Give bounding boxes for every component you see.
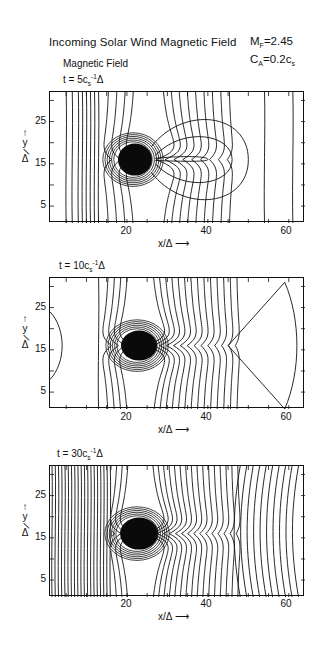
xtick-20: 20 xyxy=(120,411,131,422)
xtick-60: 60 xyxy=(280,598,291,609)
contour-plot-3 xyxy=(50,466,305,597)
xtick-60: 60 xyxy=(280,225,291,236)
dense-core xyxy=(121,331,157,361)
xtick-40: 40 xyxy=(200,225,211,236)
x-axis-label: x/Δ ⟶ xyxy=(158,238,189,249)
ytick-25: 25 xyxy=(35,115,46,126)
xtick-40: 40 xyxy=(200,598,211,609)
ytick-15: 15 xyxy=(35,157,46,168)
right-arrow-icon: ⟶ xyxy=(175,238,189,249)
dense-core xyxy=(120,518,158,550)
panel-1-time-label: t = 5cs-1Δ xyxy=(63,73,103,87)
x-axis-label: x/Δ ⟶ xyxy=(158,611,189,622)
ytick-5: 5 xyxy=(40,385,46,396)
dense-core xyxy=(118,144,152,176)
y-axis-label: ↑ y / Δ xyxy=(20,502,30,538)
ytick-5: 5 xyxy=(40,573,46,584)
figure-title: Incoming Solar Wind Magnetic Field xyxy=(49,36,236,48)
right-arrow-icon: ⟶ xyxy=(175,424,189,435)
y-axis-label: ↑ y / Δ xyxy=(20,128,30,164)
xtick-60: 60 xyxy=(280,411,291,422)
contour-panel-3 xyxy=(49,465,304,596)
ytick-15: 15 xyxy=(35,531,46,542)
xtick-40: 40 xyxy=(200,411,211,422)
panel-2-time-label: t = 10cs-1Δ xyxy=(59,259,105,273)
ytick-25: 25 xyxy=(35,489,46,500)
contour-plot-2 xyxy=(50,278,305,409)
right-arrow-icon: ⟶ xyxy=(175,611,189,622)
ytick-15: 15 xyxy=(35,343,46,354)
mach-param: MF=2.45 xyxy=(250,35,293,49)
panel-3-time-label: t = 30cs-1Δ xyxy=(57,447,103,461)
figure-subtitle: Magnetic Field xyxy=(63,58,128,69)
xtick-20: 20 xyxy=(120,598,131,609)
contour-panel-1 xyxy=(49,91,304,222)
contour-panel-2 xyxy=(49,277,304,408)
x-axis-label: x/Δ ⟶ xyxy=(158,424,189,435)
y-axis-label: ↑ y / Δ xyxy=(20,314,30,350)
xtick-20: 20 xyxy=(120,225,131,236)
ytick-25: 25 xyxy=(35,301,46,312)
contour-plot-1 xyxy=(50,92,305,223)
ytick-5: 5 xyxy=(40,199,46,210)
alfven-param: CA=0.2cs xyxy=(250,53,295,67)
